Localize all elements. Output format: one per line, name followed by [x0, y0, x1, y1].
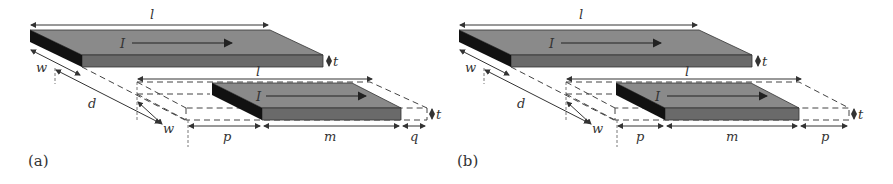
top-width-label: w — [36, 60, 47, 75]
panel-b: I l t w d w l I t — [457, 7, 864, 170]
bottom-current-label: I — [654, 89, 661, 104]
panel-a: I l t w d w l — [28, 7, 442, 170]
offset-right-label: p — [821, 129, 830, 144]
separation-label: d — [517, 96, 525, 111]
panel-b-caption: (b) — [457, 152, 478, 170]
bottom-width-label: w — [163, 121, 174, 136]
overlap-label: m — [324, 129, 336, 144]
top-length-label: l — [150, 7, 154, 22]
top-strip: I — [30, 30, 323, 67]
bottom-strip-front-face — [262, 108, 401, 120]
top-width-label: w — [465, 60, 476, 75]
bottom-length-label: l — [256, 64, 260, 79]
top-thickness-label: t — [762, 54, 768, 69]
top-current-label: I — [119, 36, 126, 51]
offset-left-label: p — [636, 129, 645, 144]
bottom-width-label: w — [592, 121, 603, 136]
bottom-current-label: I — [255, 89, 262, 104]
bottom-thickness-label: t — [858, 107, 864, 122]
figure-canvas: I l t w d w l — [0, 0, 893, 184]
bottom-thickness-label: t — [436, 107, 442, 122]
offset-right-label: q — [410, 129, 418, 144]
top-thickness-label: t — [333, 54, 339, 69]
bottom-strip-front-face — [665, 108, 799, 120]
separation-dimension — [485, 70, 589, 123]
top-strip-front-face — [511, 55, 752, 67]
overlap-label: m — [726, 129, 738, 144]
bottom-strip: I — [616, 83, 799, 120]
top-strip-front-face — [82, 55, 323, 67]
top-current-label: I — [548, 36, 555, 51]
bottom-strip: I — [212, 83, 401, 120]
bottom-length-label: l — [685, 64, 689, 79]
separation-dimension — [56, 70, 160, 123]
top-strip: I — [459, 30, 752, 67]
offset-left-label: p — [223, 129, 232, 144]
separation-label: d — [88, 96, 96, 111]
top-length-label: l — [579, 7, 583, 22]
panel-a-caption: (a) — [28, 152, 49, 170]
